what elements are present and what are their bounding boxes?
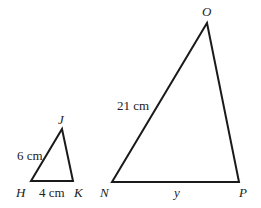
vertex-label-h: H — [16, 186, 25, 199]
vertex-label-j: J — [58, 113, 64, 126]
vertex-label-o: O — [202, 5, 211, 18]
vertex-label-n: N — [100, 186, 109, 199]
vertex-label-k: K — [74, 186, 83, 199]
vertex-label-p: P — [239, 186, 247, 199]
side-label-hj: 6 cm — [17, 149, 43, 162]
side-label-no: 21 cm — [117, 99, 149, 112]
side-label-np: y — [174, 186, 180, 199]
side-label-hk: 4 cm — [39, 186, 65, 199]
